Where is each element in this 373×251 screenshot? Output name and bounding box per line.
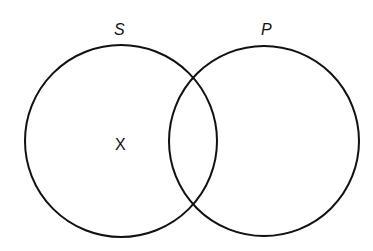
set-p-label: P	[261, 22, 272, 38]
venn-diagram	[0, 0, 373, 251]
x-mark: X	[115, 137, 126, 153]
set-s-label: S	[114, 22, 125, 38]
set-p-circle	[169, 46, 359, 236]
